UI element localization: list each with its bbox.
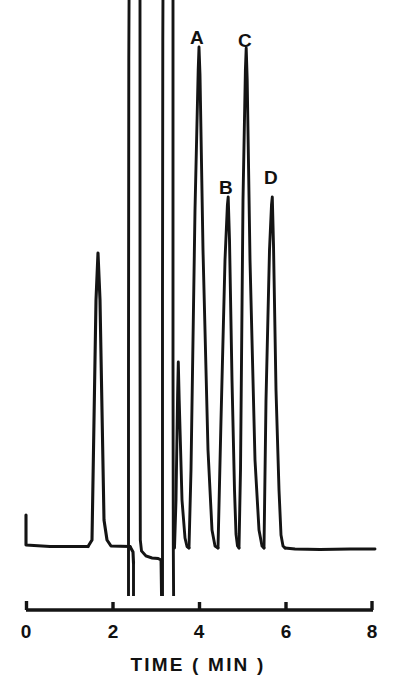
peak-a-trace: [189, 47, 218, 548]
offscale-peak-1: [129, 0, 130, 596]
trailing-baseline: [285, 548, 375, 550]
axis-tick-label-4: 4: [194, 622, 205, 641]
peak-d-trace: [264, 197, 285, 548]
chromatogram-figure: A B C D 0 2 4 6 8 TIME ( MIN ): [0, 0, 396, 686]
offscale-peak-4: [173, 0, 174, 596]
labelled-peak-group: [189, 47, 375, 550]
peak-c-trace: [239, 48, 264, 548]
axis-tick-label-8: 8: [367, 622, 378, 641]
peak-label-d: D: [264, 168, 278, 187]
axis-tick-label-0: 0: [21, 622, 32, 641]
peak-b-trace: [218, 197, 239, 548]
offscale-peak-2-trail: [140, 0, 162, 596]
minor-peak-group: [175, 362, 190, 548]
offscale-peak-3: [163, 0, 164, 596]
peak-label-b: B: [219, 178, 233, 197]
axis-title: TIME ( MIN ): [0, 654, 396, 676]
chromatogram-plot: [0, 0, 396, 686]
axis-tick-label-6: 6: [281, 622, 292, 641]
offscale-peak-group: [129, 0, 174, 596]
axis-tick-label-2: 2: [108, 622, 119, 641]
peak-label-a: A: [190, 28, 204, 47]
peak-label-c: C: [238, 31, 252, 50]
time-axis: [26, 601, 373, 610]
detector-trace: [26, 253, 134, 563]
